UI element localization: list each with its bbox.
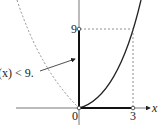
- function-diagram: 9 0 3 x f(x) < 9.: [0, 0, 159, 138]
- y-tick-9: 9: [71, 22, 77, 36]
- point-y9: [77, 27, 81, 31]
- x-axis-label: x: [151, 101, 158, 115]
- dashed-parabola-left: [17, 0, 79, 108]
- solid-parabola-right: [79, 0, 141, 108]
- origin-label: 0: [72, 109, 78, 123]
- annotation-label: f(x) < 9.: [0, 66, 34, 80]
- x-tick-3: 3: [130, 109, 136, 123]
- annotation-arrow: [40, 59, 75, 71]
